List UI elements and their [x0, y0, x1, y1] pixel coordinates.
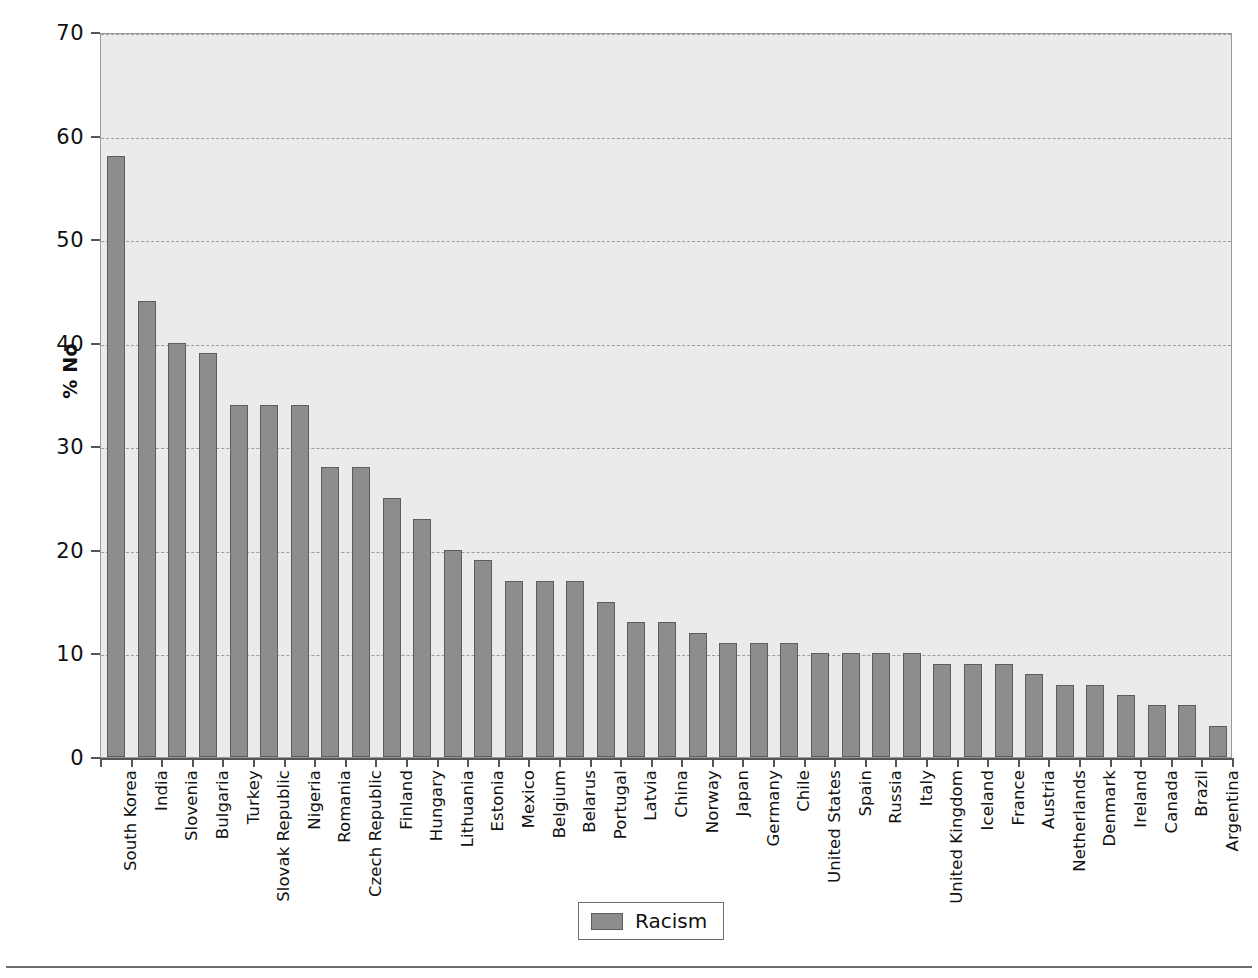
bar	[260, 405, 278, 757]
x-axis-tick-label: Belarus	[580, 770, 599, 833]
x-axis-tick-label: Belgium	[550, 770, 569, 838]
x-axis-tick-mark	[161, 758, 163, 767]
bar	[566, 581, 584, 757]
x-axis-tick-label: Lithuania	[458, 770, 477, 847]
x-axis-tick-mark	[895, 758, 897, 767]
x-axis-tick-label: Ireland	[1131, 770, 1150, 828]
footer-rule	[6, 966, 1252, 968]
bar	[352, 467, 370, 757]
bar	[168, 343, 186, 757]
bar	[597, 602, 615, 757]
bar	[505, 581, 523, 757]
bar	[842, 653, 860, 757]
x-axis-tick-label: Japan	[733, 770, 752, 817]
y-axis-tick-label: 50	[32, 228, 84, 252]
x-axis-tick-mark	[467, 758, 469, 767]
bar	[383, 498, 401, 757]
x-axis-tick-label: United Kingdom	[947, 770, 966, 904]
x-axis-tick-mark	[192, 758, 194, 767]
x-axis-tick-mark	[1048, 758, 1050, 767]
bar	[658, 622, 676, 757]
x-axis-tick-mark	[804, 758, 806, 767]
y-axis-tick-mark	[91, 343, 100, 345]
bar	[719, 643, 737, 757]
bar	[1025, 674, 1043, 757]
bar	[230, 405, 248, 757]
x-axis-tick-mark	[100, 758, 102, 767]
x-axis-tick-mark	[253, 758, 255, 767]
y-axis-tick-mark	[91, 550, 100, 552]
x-axis-tick-mark	[590, 758, 592, 767]
x-axis-tick-mark	[834, 758, 836, 767]
bar	[1178, 705, 1196, 757]
x-axis-tick-label: Netherlands	[1070, 770, 1089, 872]
x-axis-tick-mark	[681, 758, 683, 767]
y-axis-tick-label: 20	[32, 539, 84, 563]
x-axis-tick-labels: South KoreaIndiaSloveniaBulgariaTurkeySl…	[100, 770, 1232, 890]
x-axis-tick-mark	[375, 758, 377, 767]
x-axis-tick-mark	[1018, 758, 1020, 767]
x-axis-tick-mark	[498, 758, 500, 767]
x-axis-tick-mark	[957, 758, 959, 767]
x-axis-tick-label: Spain	[856, 770, 875, 817]
bar	[107, 156, 125, 757]
x-axis-tick-label: Latvia	[641, 770, 660, 821]
x-axis-tick-label: South Korea	[121, 770, 140, 871]
x-axis-tick-mark	[620, 758, 622, 767]
x-axis-tick-label: Estonia	[488, 770, 507, 831]
x-axis-tick-mark	[222, 758, 224, 767]
x-axis-tick-mark	[651, 758, 653, 767]
y-axis-tick-labels: 010203040506070	[32, 33, 84, 758]
y-axis-tick-mark	[91, 32, 100, 34]
bar	[1209, 726, 1227, 757]
x-axis-tick-mark	[926, 758, 928, 767]
y-axis-tick-label: 70	[32, 21, 84, 45]
x-axis-tick-label: Denmark	[1100, 770, 1119, 847]
x-axis-tick-label: China	[672, 770, 691, 818]
x-axis-tick-label: Hungary	[427, 770, 446, 841]
x-axis-tick-label: India	[152, 770, 171, 811]
x-axis-tick-label: Romania	[335, 770, 354, 843]
x-axis-tick-label: Germany	[764, 770, 783, 847]
bar	[291, 405, 309, 757]
x-axis-tick-mark	[712, 758, 714, 767]
x-axis-tick-label: Italy	[917, 770, 936, 806]
x-axis-tick-label: Argentina	[1223, 770, 1242, 851]
y-axis-tick-label: 40	[32, 332, 84, 356]
bar	[474, 560, 492, 757]
bar	[933, 664, 951, 757]
x-axis-tick-label: Brazil	[1192, 770, 1211, 817]
legend-swatch-racism	[591, 913, 623, 930]
x-axis-tick-label: Slovenia	[182, 770, 201, 841]
x-axis-tick-label: Slovak Republic	[274, 770, 293, 902]
bar	[964, 664, 982, 757]
bar	[689, 633, 707, 757]
y-axis-tick-mark	[91, 757, 100, 759]
y-axis-tick-label: 0	[32, 746, 84, 770]
legend: Racism	[578, 902, 724, 940]
bar	[413, 519, 431, 757]
bar	[444, 550, 462, 757]
y-axis-tick-mark	[91, 446, 100, 448]
x-axis-tick-label: Nigeria	[305, 770, 324, 830]
x-axis-tick-label: Canada	[1162, 770, 1181, 833]
bar	[1148, 705, 1166, 757]
bar	[811, 653, 829, 757]
x-axis-tick-label: France	[1009, 770, 1028, 825]
y-axis-tick-label: 30	[32, 435, 84, 459]
x-axis-tick-label: Norway	[703, 770, 722, 833]
bar	[536, 581, 554, 757]
x-axis-tick-label: Austria	[1039, 770, 1058, 829]
x-axis-tick-mark	[314, 758, 316, 767]
x-axis-tick-label: Turkey	[244, 770, 263, 824]
bar	[1086, 685, 1104, 758]
x-axis-tick-mark	[1110, 758, 1112, 767]
x-axis-tick-mark	[345, 758, 347, 767]
y-axis-tick-mark	[91, 136, 100, 138]
x-axis-tick-mark	[559, 758, 561, 767]
bar	[750, 643, 768, 757]
bar	[1117, 695, 1135, 757]
x-axis-tick-mark	[131, 758, 133, 767]
x-axis-tick-mark	[284, 758, 286, 767]
x-axis-tick-mark	[1140, 758, 1142, 767]
